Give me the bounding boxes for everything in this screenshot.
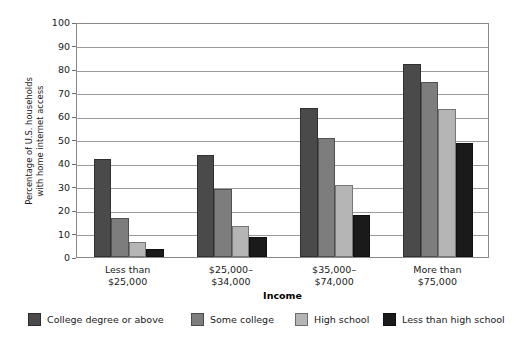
legend-label: Less than high school: [402, 314, 505, 325]
y-tick-label-40: 40: [40, 158, 70, 169]
legend-swatch-icon: [295, 313, 308, 326]
x-tick-label-line-1: $35,000–: [283, 264, 386, 276]
legend-item[interactable]: Some college: [191, 310, 274, 328]
y-tick-label-90: 90: [40, 41, 70, 52]
legend-label: High school: [314, 314, 369, 325]
bar-group: [180, 24, 283, 257]
bar: [146, 249, 164, 257]
legend-swatch-icon: [28, 313, 41, 326]
y-tick-label-70: 70: [40, 88, 70, 99]
legend-item[interactable]: Less than high school: [383, 310, 505, 328]
y-tick-label-80: 80: [40, 64, 70, 75]
bar: [318, 138, 336, 257]
x-tick-label-line-2: $25,000: [76, 276, 179, 288]
legend-swatch-icon: [191, 313, 204, 326]
x-tick-label: More than$75,000: [386, 264, 489, 287]
legend-item[interactable]: College degree or above: [28, 310, 164, 328]
bar: [232, 226, 250, 257]
legend-swatch-icon: [383, 313, 396, 326]
bar: [456, 143, 474, 257]
y-tick-label-10: 10: [40, 229, 70, 240]
bar: [421, 82, 439, 257]
x-tick-label-line-1: More than: [386, 264, 489, 276]
x-tick-label: $25,000–$34,000: [179, 264, 282, 287]
x-tick-label-line-1: $25,000–: [179, 264, 282, 276]
x-tick-label-line-2: $74,000: [283, 276, 386, 288]
y-tick-label-50: 50: [40, 135, 70, 146]
x-tick-label: $35,000–$74,000: [283, 264, 386, 287]
y-tick-label-60: 60: [40, 111, 70, 122]
legend-label: Some college: [210, 314, 274, 325]
y-tick-label-0: 0: [40, 252, 70, 263]
x-tick-label-line-1: Less than: [76, 264, 179, 276]
bar: [249, 237, 267, 257]
bar: [214, 189, 232, 257]
bar-group: [387, 24, 490, 257]
bar: [335, 185, 353, 257]
y-tick-label-30: 30: [40, 182, 70, 193]
y-tick-label-100: 100: [40, 17, 70, 28]
y-tick-label-20: 20: [40, 205, 70, 216]
bar: [300, 108, 318, 257]
bar-group: [284, 24, 387, 257]
plot-area: [76, 23, 489, 258]
bar: [403, 64, 421, 257]
bar: [197, 155, 215, 257]
bar-chart-figure: Percentage of U.S. households with home …: [0, 0, 520, 344]
x-axis-title: Income: [76, 290, 489, 301]
y-axis-title-line-1: Percentage of U.S. households: [24, 77, 35, 205]
legend-item[interactable]: High school: [295, 310, 369, 328]
bar-group: [77, 24, 180, 257]
x-tick-label: Less than$25,000: [76, 264, 179, 287]
x-tick-label-line-2: $34,000: [179, 276, 282, 288]
bar: [94, 159, 112, 257]
bar: [129, 242, 147, 257]
x-tick-label-line-2: $75,000: [386, 276, 489, 288]
chart-legend: College degree or aboveSome collegeHigh …: [0, 310, 520, 330]
legend-label: College degree or above: [47, 314, 164, 325]
bar: [111, 218, 129, 257]
bar: [438, 109, 456, 257]
bar: [353, 215, 371, 257]
